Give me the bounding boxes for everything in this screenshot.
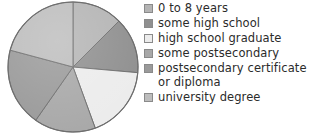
legend-swatch-university-degree: [144, 93, 153, 102]
pie-outline: [8, 2, 138, 132]
pie-chart-figure: 0 to 8 years some high school high schoo…: [0, 0, 311, 136]
legend-item[interactable]: some postsecondary: [144, 46, 311, 60]
legend-swatch-some-postsecondary: [144, 49, 153, 58]
legend-swatch-some-high-school: [144, 19, 153, 28]
legend-label: high school graduate: [158, 31, 282, 45]
chart-legend: 0 to 8 years some high school high schoo…: [144, 1, 311, 135]
legend-label: postsecondary certificate or diploma: [158, 61, 307, 89]
pie-chart-plot-area: [6, 1, 140, 135]
legend-label: some postsecondary: [158, 46, 279, 60]
legend-swatch-postsecondary-certificate: [144, 64, 153, 73]
legend-item[interactable]: university degree: [144, 90, 311, 104]
legend-item[interactable]: high school graduate: [144, 31, 311, 45]
legend-swatch-high-school-graduate: [144, 34, 153, 43]
pie-chart-svg: [6, 1, 140, 135]
legend-item[interactable]: postsecondary certificate or diploma: [144, 61, 311, 89]
legend-label: 0 to 8 years: [158, 1, 228, 15]
legend-item[interactable]: some high school: [144, 16, 311, 30]
legend-swatch-0-to-8-years: [144, 4, 153, 13]
legend-item[interactable]: 0 to 8 years: [144, 1, 311, 15]
legend-label: university degree: [158, 90, 261, 104]
legend-label: some high school: [158, 16, 260, 30]
